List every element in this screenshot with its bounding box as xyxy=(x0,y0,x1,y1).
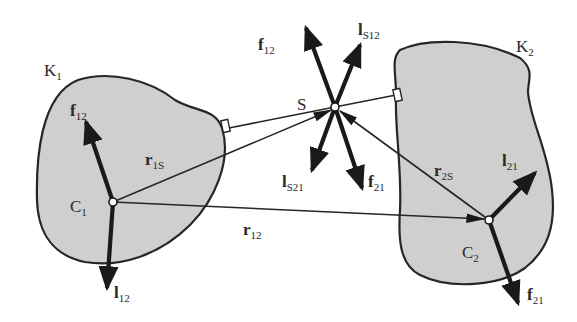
body-k1-shape xyxy=(37,76,225,263)
joint-k2 xyxy=(393,88,402,101)
label-k2: K2 xyxy=(516,37,534,58)
link-k2-to-s xyxy=(335,95,396,107)
body-k2-shape xyxy=(395,42,553,284)
point-c1 xyxy=(109,198,117,206)
link-k1-to-s xyxy=(229,107,335,128)
label-k1: K1 xyxy=(44,61,62,82)
body-k1 xyxy=(37,76,225,263)
label-l12-c1: l12 xyxy=(114,283,130,304)
label-f21-s: f21 xyxy=(368,172,385,193)
label-r12: r12 xyxy=(243,220,262,241)
label-ls12: lS12 xyxy=(358,20,380,41)
body-k2 xyxy=(395,42,553,284)
label-f12-s: f12 xyxy=(258,35,275,56)
arrow-f21-s xyxy=(335,107,362,188)
two-body-interaction-diagram: K1 K2 C1 C2 S f12 l12 r1S r12 f12 lS12 l… xyxy=(0,0,577,322)
point-c2 xyxy=(485,216,493,224)
label-f21-c2: f21 xyxy=(527,285,544,306)
arrow-f12-s xyxy=(306,28,335,107)
arrow-ls12-s xyxy=(335,45,360,107)
label-ls21: lS21 xyxy=(282,172,304,193)
point-s xyxy=(331,103,339,111)
joint-k1 xyxy=(221,119,230,132)
label-s: S xyxy=(297,95,306,114)
